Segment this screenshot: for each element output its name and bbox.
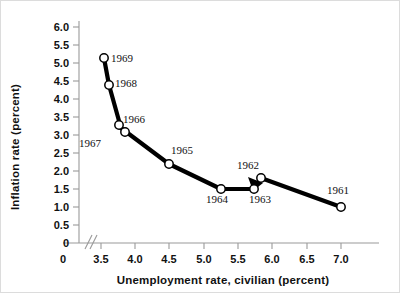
point-label-1963: 1963 (249, 193, 272, 205)
y-tick-label: 2.0 (54, 165, 69, 177)
point-label-1962: 1962 (237, 159, 259, 171)
segment-1964-1965 (169, 164, 221, 189)
data-point-1962[interactable] (257, 174, 265, 182)
data-point-1969[interactable] (100, 54, 108, 62)
data-point-1967[interactable] (121, 128, 129, 136)
y-tick-label: 0 (63, 237, 69, 249)
y-tick-label: 1.5 (54, 183, 69, 195)
y-tick-label: 0.5 (54, 219, 69, 231)
y-tick-label: 2.5 (54, 147, 69, 159)
chart-canvas: 6.0 5.5 5.0 4.5 4.0 3.5 3.0 2.5 2.0 1.5 … (1, 1, 400, 293)
x-tick-label: 5.5 (230, 253, 245, 265)
x-axis-tick-labels: 0 3.5 4.0 4.5 5.0 5.5 6.0 6.5 7.0 (60, 253, 349, 265)
y-tick-label: 3.0 (54, 129, 69, 141)
point-label-1961: 1961 (327, 184, 349, 196)
data-point-1961[interactable] (337, 203, 345, 211)
y-axis-ticks (73, 27, 79, 225)
point-label-1968: 1968 (115, 77, 138, 89)
y-tick-label: 4.0 (54, 93, 69, 105)
phillips-curve-figure: 6.0 5.5 5.0 4.5 4.0 3.5 3.0 2.5 2.0 1.5 … (0, 0, 400, 293)
y-tick-label: 1.0 (54, 201, 69, 213)
y-tick-label: 6.0 (54, 21, 69, 33)
point-label-1969: 1969 (111, 52, 134, 64)
x-tick-label: 4.0 (127, 253, 142, 265)
data-point-1965[interactable] (165, 160, 173, 168)
y-tick-label: 5.0 (54, 57, 69, 69)
y-tick-label: 4.5 (54, 75, 69, 87)
data-point-1968[interactable] (105, 81, 113, 89)
x-tick-label: 0 (60, 253, 66, 265)
point-label-1967: 1967 (79, 137, 102, 149)
y-axis-title: Inflation rate (percent) (9, 84, 21, 210)
point-label-1964: 1964 (206, 193, 229, 205)
x-tick-label: 4.5 (161, 253, 176, 265)
x-tick-label: 5.0 (196, 253, 211, 265)
x-axis-break-icon (85, 235, 97, 249)
x-axis-ticks (101, 243, 341, 249)
data-point-1963[interactable] (250, 185, 258, 193)
x-tick-label: 3.5 (93, 253, 108, 265)
x-tick-label: 6.5 (299, 253, 314, 265)
y-tick-label: 3.5 (54, 111, 69, 123)
x-axis-title: Unemployment rate, civilian (percent) (117, 274, 330, 286)
point-label-1966: 1966 (123, 113, 146, 125)
y-axis-tick-labels: 6.0 5.5 5.0 4.5 4.0 3.5 3.0 2.5 2.0 1.5 … (54, 21, 69, 249)
x-tick-label: 6.0 (264, 253, 279, 265)
data-point-1964[interactable] (217, 185, 225, 193)
point-label-1965: 1965 (171, 144, 194, 156)
y-tick-label: 5.5 (54, 39, 69, 51)
x-tick-label: 7.0 (333, 253, 348, 265)
data-point-1966[interactable] (115, 121, 123, 129)
